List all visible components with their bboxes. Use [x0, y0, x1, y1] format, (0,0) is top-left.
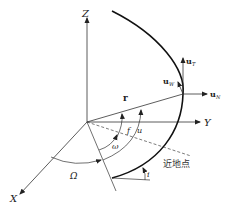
r-label: r: [123, 93, 128, 103]
angle-Omega-arc: [51, 157, 101, 163]
uW-sub: W: [169, 81, 175, 87]
Omega-label: Ω: [69, 171, 78, 181]
z-label: Z: [81, 8, 90, 19]
i-label: i: [147, 170, 150, 179]
inclination-ref-line: [112, 178, 150, 180]
orbit-diagram: Z Y X r u T u W u N f u ω Ω i 近地点: [0, 0, 233, 211]
angle-i-arc: [143, 168, 145, 180]
uT-sub: T: [192, 61, 196, 67]
r-vector: [87, 94, 183, 122]
y-label: Y: [204, 117, 212, 128]
omega-label: ω: [112, 142, 119, 151]
node-line: [87, 122, 116, 191]
uN-sub: N: [215, 94, 221, 100]
x-label: X: [9, 193, 18, 204]
u-label: u: [137, 126, 142, 135]
perigee-label: 近地点: [163, 158, 190, 169]
f-label: f: [126, 126, 132, 135]
